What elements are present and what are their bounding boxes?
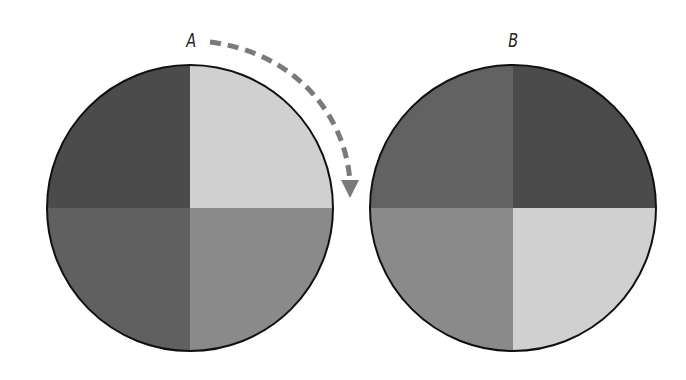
diagram-canvas xyxy=(0,0,686,380)
disc-a-quadrant-bottom-right xyxy=(190,208,333,351)
disc-b xyxy=(370,65,656,351)
disc-a-quadrant-top-left xyxy=(47,65,190,208)
rotation-diagram: A B xyxy=(0,0,686,380)
disc-b-quadrant-top-left xyxy=(370,65,513,208)
disc-b-label: B xyxy=(508,28,518,52)
disc-a xyxy=(47,65,333,351)
disc-b-quadrant-top-right xyxy=(513,65,656,208)
disc-b-quadrant-bottom-right xyxy=(513,208,656,351)
disc-a-quadrant-top-right xyxy=(190,65,333,208)
disc-a-label: A xyxy=(186,28,196,52)
disc-a-quadrant-bottom-left xyxy=(47,208,190,351)
disc-b-quadrant-bottom-left xyxy=(370,208,513,351)
